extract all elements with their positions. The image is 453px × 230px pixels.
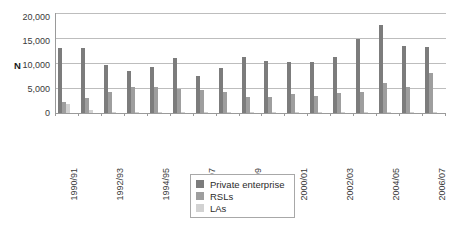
bar-group <box>285 13 308 113</box>
x-axis-labels: 1990/911992/931994/951996/971998/992000/… <box>55 118 445 170</box>
legend-swatch-icon <box>196 204 204 212</box>
bar <box>177 89 181 113</box>
legend: Private enterprise RSLs LAs <box>190 174 295 218</box>
bar-group <box>400 13 423 113</box>
y-axis: 20,000 15,000 N 10,000 5,000 0 <box>0 0 54 125</box>
bar <box>429 73 433 114</box>
bar-group <box>125 13 148 113</box>
bar <box>66 104 70 113</box>
bar <box>131 87 135 114</box>
bar <box>108 92 112 113</box>
x-tick-mark <box>422 113 423 116</box>
bar <box>268 97 272 113</box>
bar-group <box>308 13 331 113</box>
y-tick-label: 15,000 <box>22 37 50 46</box>
legend-item-label: RSLs <box>210 191 233 202</box>
bar <box>337 93 341 113</box>
y-tick-label: 20,000 <box>22 13 50 22</box>
bar-group <box>171 13 194 113</box>
bar-group <box>423 13 446 113</box>
x-tick-mark <box>124 113 125 116</box>
x-tick-mark <box>147 113 148 116</box>
bar-group <box>102 13 125 113</box>
bar <box>246 97 250 113</box>
x-tick-mark <box>445 113 446 116</box>
legend-item-las[interactable]: LAs <box>196 202 284 214</box>
x-tick-mark <box>376 113 377 116</box>
x-tick-mark <box>261 113 262 116</box>
plot-area <box>55 13 446 114</box>
y-tick-label: 5,000 <box>27 85 50 94</box>
x-tick-label: 1990/91 <box>70 168 79 201</box>
y-axis-title: N <box>14 61 21 70</box>
x-tick-mark <box>78 113 79 116</box>
bar <box>291 94 295 114</box>
x-axis-ticks <box>55 113 445 117</box>
x-tick-mark <box>330 113 331 116</box>
bars-layer <box>56 13 446 113</box>
bar <box>154 87 158 113</box>
bar <box>406 87 410 113</box>
bar-chart: 20,000 15,000 N 10,000 5,000 0 1990/9119… <box>0 0 453 230</box>
x-tick-mark <box>55 113 56 116</box>
x-tick-mark <box>170 113 171 116</box>
bar <box>383 83 387 114</box>
x-tick-label: 2004/05 <box>392 168 401 201</box>
bar-group <box>240 13 263 113</box>
bar-group <box>217 13 240 113</box>
bar <box>223 92 227 113</box>
x-tick-label: 2006/07 <box>438 168 447 201</box>
x-tick-mark <box>399 113 400 116</box>
bar-group <box>56 13 79 113</box>
bar-group <box>262 13 285 113</box>
x-tick-mark <box>193 113 194 116</box>
legend-swatch-icon <box>196 192 204 200</box>
legend-item-label: LAs <box>210 203 226 214</box>
x-tick-mark <box>101 113 102 116</box>
x-tick-label: 1994/95 <box>162 168 171 201</box>
legend-swatch-icon <box>196 180 204 188</box>
y-tick-label: 0 <box>45 109 50 118</box>
legend-item-private-enterprise[interactable]: Private enterprise <box>196 178 284 190</box>
legend-item-rsls[interactable]: RSLs <box>196 190 284 202</box>
y-tick-label: 10,000 <box>22 61 50 70</box>
bar <box>200 90 204 113</box>
legend-item-label: Private enterprise <box>210 179 284 190</box>
x-tick-mark <box>239 113 240 116</box>
bar-group <box>354 13 377 113</box>
bar-group <box>79 13 102 113</box>
bar <box>360 92 364 113</box>
x-tick-mark <box>307 113 308 116</box>
x-tick-label: 2000/01 <box>300 168 309 201</box>
bar-group <box>194 13 217 113</box>
x-tick-mark <box>353 113 354 116</box>
x-tick-label: 1992/93 <box>116 168 125 201</box>
bar <box>314 96 318 113</box>
x-tick-mark <box>284 113 285 116</box>
bar-group <box>377 13 400 113</box>
x-tick-label: 2002/03 <box>346 168 355 201</box>
bar-group <box>148 13 171 113</box>
x-tick-mark <box>216 113 217 116</box>
bar-group <box>331 13 354 113</box>
